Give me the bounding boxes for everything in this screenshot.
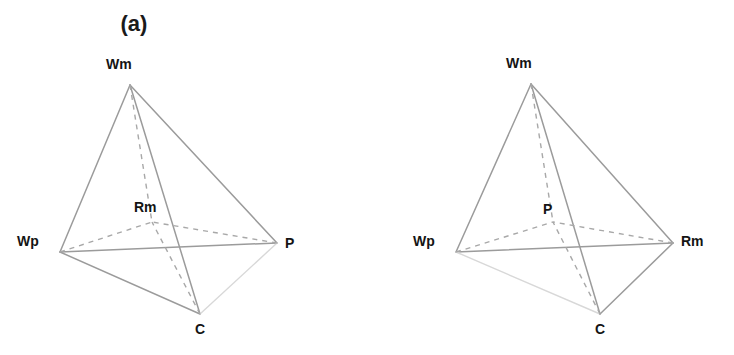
panel-a: (a) — [0, 0, 367, 355]
vertex-label-b-wp: Wp — [413, 234, 435, 248]
vertex-label-a-wp: Wp — [17, 234, 39, 248]
vertex-label-b-p: P — [543, 202, 552, 216]
vertex-label-a-c: C — [195, 322, 205, 336]
panel-a-title: (a) — [74, 11, 194, 37]
panel-b: (b) — [367, 0, 734, 355]
vertex-label-a-wm: Wm — [106, 57, 132, 71]
vertex-label-a-rm: Rm — [134, 200, 157, 214]
vertex-label-b-rm: Rm — [681, 234, 704, 248]
tetrahedron-figure: (a) (b) WmWpPCRmWmWpRmCP — [0, 0, 734, 355]
vertex-label-a-p: P — [285, 236, 294, 250]
vertex-label-b-wm: Wm — [506, 56, 532, 70]
vertex-label-b-c: C — [595, 322, 605, 336]
